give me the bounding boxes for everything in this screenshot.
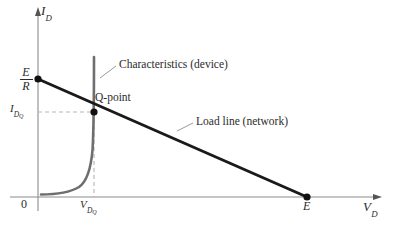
e-over-r-denominator: R bbox=[18, 80, 34, 94]
e-over-r-point-marker bbox=[34, 75, 41, 82]
e-intercept-label: E bbox=[303, 200, 310, 212]
device-characteristic-curve bbox=[41, 57, 94, 195]
idq-subsub: Q bbox=[19, 113, 23, 119]
load-line-leader-line bbox=[177, 123, 193, 131]
vdq-main: V bbox=[80, 198, 87, 210]
q-point-marker bbox=[90, 108, 97, 115]
e-over-r-label: E R bbox=[18, 66, 34, 93]
guide-lines-group bbox=[38, 112, 94, 197]
characteristics-callout-label: Characteristics (device) bbox=[119, 59, 228, 71]
idq-tick-label: IDQ bbox=[10, 103, 23, 117]
load-line bbox=[38, 79, 307, 197]
load-line-callout-label: Load line (network) bbox=[196, 116, 288, 128]
characteristics-leader-line bbox=[100, 66, 116, 78]
vdq-subsub: Q bbox=[92, 209, 96, 215]
x-axis-label-sub: D bbox=[371, 209, 377, 219]
origin-label: 0 bbox=[21, 198, 27, 210]
x-axis-label-main: V bbox=[363, 199, 371, 214]
diode-load-line-figure: ID VD 0 E R IDQ VDQ E Characteristics (d… bbox=[0, 0, 396, 233]
x-axis-label: VD bbox=[363, 200, 377, 216]
q-point-callout-label: Q-point bbox=[95, 92, 131, 104]
y-axis-label-main: I bbox=[41, 3, 45, 18]
vdq-tick-label: VDQ bbox=[80, 199, 97, 213]
y-axis-label: ID bbox=[41, 4, 52, 20]
y-axis-label-sub: D bbox=[46, 13, 52, 23]
axes-group bbox=[10, 7, 382, 211]
e-over-r-numerator: E bbox=[18, 66, 34, 79]
